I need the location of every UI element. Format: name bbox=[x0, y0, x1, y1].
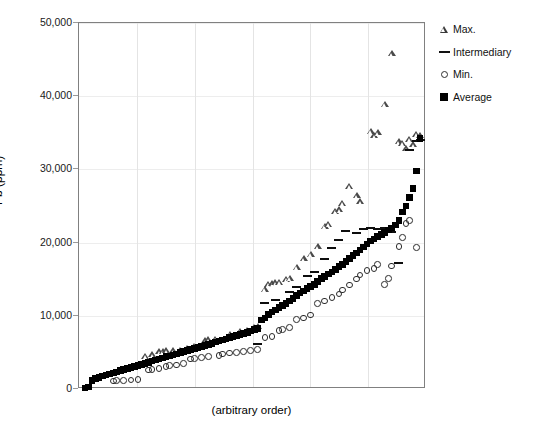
plot-area bbox=[78, 22, 425, 388]
y-axis-tick-mark bbox=[73, 168, 78, 169]
min-marker bbox=[406, 217, 413, 224]
y-axis-tick-label: 20,000 bbox=[0, 236, 72, 248]
legend-label-intermediary: Intermediary bbox=[453, 46, 511, 58]
y-axis-tick-mark bbox=[73, 95, 78, 96]
max-marker bbox=[374, 129, 382, 135]
min-marker bbox=[254, 346, 261, 353]
min-marker bbox=[156, 365, 163, 372]
min-marker bbox=[233, 349, 240, 356]
average-marker bbox=[417, 135, 424, 142]
legend: Max. Intermediary Min. Average bbox=[437, 20, 539, 110]
min-marker bbox=[413, 244, 420, 251]
legend-item-average: Average bbox=[437, 88, 539, 107]
min-marker bbox=[321, 298, 328, 305]
average-marker bbox=[85, 384, 92, 391]
legend-label-min: Min. bbox=[453, 68, 473, 80]
gridline-vertical bbox=[137, 23, 138, 387]
min-circle-icon bbox=[437, 71, 451, 78]
max-marker bbox=[335, 206, 343, 212]
average-marker bbox=[413, 168, 420, 175]
min-marker bbox=[180, 360, 187, 367]
min-marker bbox=[113, 377, 120, 384]
average-marker bbox=[406, 194, 413, 201]
min-marker bbox=[240, 348, 247, 355]
min-marker bbox=[385, 275, 392, 282]
gridline-horizontal bbox=[79, 316, 424, 317]
max-marker bbox=[381, 101, 389, 107]
max-marker bbox=[293, 264, 301, 270]
min-marker bbox=[219, 351, 226, 358]
gridline-horizontal bbox=[79, 96, 424, 97]
intermediary-marker bbox=[253, 343, 262, 345]
intermediary-marker bbox=[405, 149, 414, 151]
intermediary-marker bbox=[271, 299, 280, 301]
legend-label-max: Max. bbox=[453, 23, 476, 35]
gridline-horizontal bbox=[79, 23, 424, 24]
min-marker bbox=[166, 362, 173, 369]
max-marker bbox=[307, 251, 315, 257]
average-marker bbox=[399, 209, 406, 216]
min-marker bbox=[399, 234, 406, 241]
max-triangle-icon bbox=[437, 26, 451, 33]
min-marker bbox=[226, 350, 233, 357]
y-axis-tick-mark bbox=[73, 315, 78, 316]
min-marker bbox=[357, 272, 364, 279]
min-marker bbox=[346, 282, 353, 289]
intermediary-marker bbox=[334, 239, 343, 241]
min-marker bbox=[300, 315, 307, 322]
y-axis-tick-label: 40,000 bbox=[0, 89, 72, 101]
figure-scatter-pb-concentration: Pb (ppm) (arbitrary order) Max. Intermed… bbox=[0, 0, 539, 447]
min-marker bbox=[307, 312, 314, 319]
min-marker bbox=[120, 377, 127, 384]
y-axis-tick-mark bbox=[73, 242, 78, 243]
min-marker bbox=[269, 333, 276, 340]
intermediary-marker bbox=[320, 258, 329, 260]
min-marker bbox=[205, 353, 212, 360]
max-marker bbox=[314, 243, 322, 249]
max-marker bbox=[388, 50, 396, 56]
min-marker bbox=[286, 324, 293, 331]
intermediary-marker bbox=[310, 271, 319, 273]
intermediary-marker bbox=[394, 262, 403, 264]
average-marker bbox=[396, 217, 403, 224]
gridline-horizontal bbox=[79, 169, 424, 170]
min-marker bbox=[279, 326, 286, 333]
min-marker bbox=[314, 300, 321, 307]
y-axis-tick-mark bbox=[73, 22, 78, 23]
max-marker bbox=[338, 200, 346, 206]
min-marker bbox=[329, 294, 336, 301]
min-marker bbox=[135, 376, 142, 383]
intermediary-marker bbox=[341, 230, 350, 232]
legend-item-intermediary: Intermediary bbox=[437, 43, 539, 62]
intermediary-dash-icon bbox=[437, 51, 451, 53]
intermediary-marker bbox=[303, 275, 312, 277]
average-marker bbox=[403, 203, 410, 210]
average-marker bbox=[254, 325, 261, 332]
min-marker bbox=[173, 362, 180, 369]
y-axis-tick-label: 0 bbox=[0, 382, 72, 394]
figure-caption bbox=[6, 438, 539, 447]
min-marker bbox=[374, 261, 381, 268]
y-axis-tick-mark bbox=[73, 388, 78, 389]
max-marker bbox=[324, 221, 332, 227]
average-square-icon bbox=[437, 93, 451, 101]
min-marker bbox=[247, 347, 254, 354]
gridline-vertical bbox=[195, 23, 196, 387]
min-marker bbox=[364, 267, 371, 274]
min-marker bbox=[128, 377, 135, 384]
y-axis-tick-label: 30,000 bbox=[0, 162, 72, 174]
legend-item-max: Max. bbox=[437, 20, 539, 39]
gridline-vertical bbox=[310, 23, 311, 387]
min-marker bbox=[396, 243, 403, 250]
min-marker bbox=[198, 354, 205, 361]
y-axis-tick-label: 50,000 bbox=[0, 16, 72, 28]
max-marker bbox=[286, 275, 294, 281]
legend-item-min: Min. bbox=[437, 65, 539, 84]
min-marker bbox=[149, 366, 156, 373]
max-marker bbox=[356, 198, 364, 204]
min-marker bbox=[262, 334, 269, 341]
max-marker bbox=[345, 183, 353, 189]
legend-label-average: Average bbox=[453, 91, 492, 103]
x-axis-label: (arbitrary order) bbox=[0, 404, 503, 416]
intermediary-marker bbox=[352, 232, 361, 234]
